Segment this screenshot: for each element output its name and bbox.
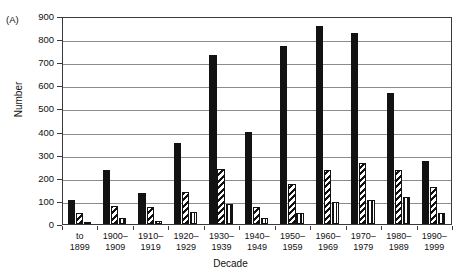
x-category-line: 1960–	[310, 231, 345, 242]
bar-series-2-6	[288, 184, 295, 224]
bar-group	[387, 18, 410, 224]
x-category-line: 1950–	[275, 231, 310, 242]
bar-series-3-5	[261, 218, 268, 224]
y-tick-label: 900	[38, 12, 54, 22]
x-tick-mark	[133, 226, 134, 230]
bar-group	[138, 18, 161, 224]
x-tick-mark	[452, 226, 453, 230]
x-category-line: to	[62, 231, 97, 242]
bar-group	[422, 18, 445, 224]
bar-series-1-0	[68, 200, 75, 224]
y-tick-label: 200	[38, 174, 54, 184]
bar-series-3-3	[190, 212, 197, 224]
x-category-label: 1990–1999	[417, 231, 452, 253]
x-category-line: 1920–	[168, 231, 203, 242]
bar-series-2-2	[147, 207, 154, 224]
x-category-line: 1909	[97, 242, 132, 253]
x-category-line: 1949	[239, 242, 274, 253]
x-category-line: 1939	[204, 242, 239, 253]
bar-series-2-4	[217, 169, 224, 224]
bar-group	[280, 18, 303, 224]
bar-series-1-7	[316, 26, 323, 224]
bar-series-2-8	[359, 163, 366, 224]
x-tick-mark	[97, 226, 98, 230]
bar-series-3-9	[403, 197, 410, 224]
bar-series-1-4	[209, 55, 216, 224]
x-category-line: 1989	[381, 242, 416, 253]
bar-series-2-0	[76, 213, 83, 224]
bar-series-1-6	[280, 46, 287, 224]
y-tick-label: 700	[38, 58, 54, 68]
x-category-label: 1910–1919	[133, 231, 168, 253]
x-category-line: 1910–	[133, 231, 168, 242]
x-category-line: 1970–	[346, 231, 381, 242]
bar-series-3-6	[296, 213, 303, 224]
x-tick-mark	[239, 226, 240, 230]
x-tick-mark	[417, 226, 418, 230]
bar-series-1-10	[422, 161, 429, 224]
bar-series-2-5	[253, 207, 260, 224]
y-tick-label: 500	[38, 104, 54, 114]
bar-series-1-5	[245, 132, 252, 224]
y-tick-label: 100	[38, 197, 54, 207]
x-category-line: 1999	[417, 242, 452, 253]
bar-series-2-7	[324, 170, 331, 224]
bar-series-3-1	[119, 218, 126, 224]
x-category-label: 1920–1929	[168, 231, 203, 253]
x-axis-title: Decade	[0, 258, 461, 269]
y-tick-label: 300	[38, 151, 54, 161]
y-tick-label: 0	[49, 220, 54, 230]
bar-group	[68, 18, 91, 224]
x-tick-mark	[204, 226, 205, 230]
bar-series-2-3	[182, 192, 189, 224]
x-tick-mark	[381, 226, 382, 230]
bar-series-3-7	[332, 202, 339, 224]
bar-series-2-9	[395, 170, 402, 224]
x-category-label: 1930–1939	[204, 231, 239, 253]
bar-group	[316, 18, 339, 224]
x-category-line: 1979	[346, 242, 381, 253]
bar-series-1-8	[351, 33, 358, 224]
clipped-header-artifact	[30, 0, 450, 5]
x-category-label: 1980–1989	[381, 231, 416, 253]
x-category-label: 1970–1979	[346, 231, 381, 253]
bar-group	[103, 18, 126, 224]
x-category-line: 1900–	[97, 231, 132, 242]
plot-area	[62, 17, 452, 225]
bar-group	[209, 18, 232, 224]
figure-panel-a: (A) Number 0100200300400500600700800900 …	[0, 0, 461, 279]
bar-series-1-3	[174, 143, 181, 224]
x-tick-mark	[62, 226, 63, 230]
x-category-line: 1990–	[417, 231, 452, 242]
x-category-label: 1950–1959	[275, 231, 310, 253]
x-category-line: 1930–	[204, 231, 239, 242]
y-tick-label: 400	[38, 128, 54, 138]
bar-series-3-0	[84, 222, 91, 224]
x-category-label: 1960–1969	[310, 231, 345, 253]
bar-group	[351, 18, 374, 224]
bar-series-3-8	[367, 200, 374, 224]
bar-series-1-2	[138, 193, 145, 224]
x-category-line: 1929	[168, 242, 203, 253]
bar-series-2-1	[111, 206, 118, 224]
x-category-line: 1959	[275, 242, 310, 253]
bar-series-3-2	[155, 221, 162, 224]
bar-series-3-4	[226, 204, 233, 224]
x-category-label: to1899	[62, 231, 97, 253]
bar-series-2-10	[430, 187, 437, 224]
x-category-label: 1900–1909	[97, 231, 132, 253]
x-category-line: 1969	[310, 242, 345, 253]
x-category-line: 1919	[133, 242, 168, 253]
x-tick-mark	[346, 226, 347, 230]
y-axis-ticks: 0100200300400500600700800900	[0, 0, 60, 279]
bar-series-1-9	[387, 93, 394, 224]
x-tick-mark	[275, 226, 276, 230]
x-category-line: 1940–	[239, 231, 274, 242]
x-tick-mark	[168, 226, 169, 230]
x-category-line: 1980–	[381, 231, 416, 242]
x-category-label: 1940–1949	[239, 231, 274, 253]
x-tick-mark	[310, 226, 311, 230]
x-category-line: 1899	[62, 242, 97, 253]
bar-group	[174, 18, 197, 224]
bar-group	[245, 18, 268, 224]
